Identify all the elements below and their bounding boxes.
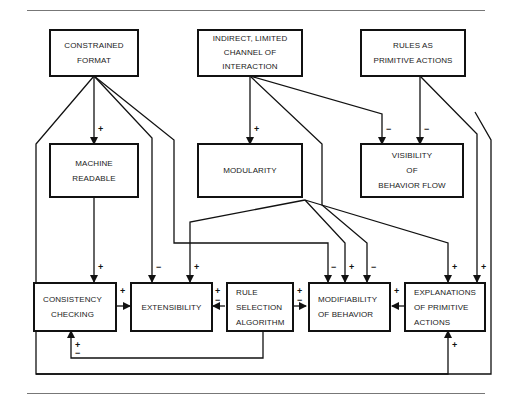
node-label: FORMAT [77, 53, 111, 68]
node-label: CONSTRAINED [64, 38, 123, 53]
sign-minus: − [386, 125, 391, 134]
node-label: VISIBILITY [392, 148, 433, 163]
node-indirect-channel: INDIRECT, LIMITED CHANNEL OF INTERACTION [197, 29, 303, 77]
node-constrained-format: CONSTRAINED FORMAT [49, 29, 139, 77]
node-modifiability: MODIFIABILITY OF BEHAVIOR [308, 282, 391, 332]
sign-plus: + [98, 263, 103, 272]
node-label: OF BEHAVIOR [318, 307, 373, 322]
node-label: BEHAVIOR FLOW [378, 178, 445, 193]
edge-loop-exp [36, 331, 448, 374]
sign-plus: + [349, 263, 354, 272]
node-label: ACTIONS [414, 315, 450, 330]
node-rule-selection: RULE SELECTION ALGORITHM [226, 282, 294, 332]
node-label: CHANNEL OF [224, 46, 276, 60]
node-label: RULES AS [393, 38, 433, 53]
sign-plus: + [394, 287, 399, 296]
sign-minus: − [331, 263, 336, 272]
node-visibility: VISIBILITY OF BEHAVIOR FLOW [360, 143, 464, 198]
sign-plus: + [254, 125, 259, 134]
node-label: INTERACTION [222, 60, 277, 74]
node-label: READABLE [72, 171, 115, 186]
node-explanations: EXPLANATIONS OF PRIMITIVE ACTIONS [404, 282, 486, 332]
node-label: ALGORITHM [236, 315, 284, 330]
node-label: EXTENSIBILITY [142, 300, 202, 315]
sign-minus: − [156, 263, 161, 272]
node-consistency-checking: CONSISTENCY CHECKING [33, 282, 117, 332]
node-label: MODIFIABILITY [318, 292, 377, 307]
sign-minus: − [215, 296, 220, 305]
sign-plus: + [120, 287, 125, 296]
node-label: RULE [236, 285, 258, 300]
node-label: INDIRECT, LIMITED [213, 32, 288, 46]
node-label: OF PRIMITIVE [414, 300, 469, 315]
edge-rs-cc [71, 329, 263, 358]
node-extensibility: EXTENSIBILITY [130, 282, 213, 332]
sign-plus: + [98, 125, 103, 134]
edge-mo-modif [305, 200, 345, 282]
sign-plus: + [452, 263, 457, 272]
sign-minus: − [75, 349, 80, 358]
node-label: MODULARITY [223, 163, 276, 178]
edge-mo-exp [305, 200, 448, 282]
sign-minus: − [424, 125, 429, 134]
sign-minus: − [371, 263, 376, 272]
node-label: CONSISTENCY [43, 292, 102, 307]
sign-plus: + [452, 341, 457, 350]
edge-ic-vis [250, 76, 382, 144]
node-rules-primitive: RULES AS PRIMITIVE ACTIONS [360, 29, 466, 77]
node-label: EXPLANATIONS [414, 285, 476, 300]
node-label: MACHINE [75, 156, 113, 171]
sign-minus: − [297, 296, 302, 305]
sign-plus: + [194, 263, 199, 272]
node-modularity: MODULARITY [197, 143, 303, 198]
sign-plus: + [481, 263, 486, 272]
node-label: OF [406, 163, 417, 178]
node-label: CHECKING [43, 307, 94, 322]
edge-mo-ext [190, 200, 305, 282]
node-label: PRIMITIVE ACTIONS [373, 53, 452, 68]
node-label: SELECTION [236, 300, 282, 315]
node-machine-readable: MACHINE READABLE [49, 143, 139, 198]
